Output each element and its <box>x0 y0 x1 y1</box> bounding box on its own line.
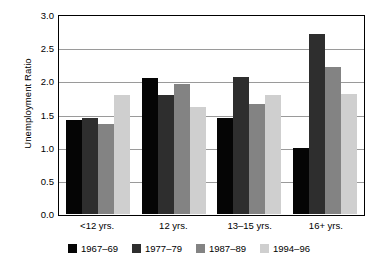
y-axis-tick-label: 3.0 <box>24 11 54 21</box>
bar[interactable] <box>98 124 114 214</box>
bar[interactable] <box>233 77 249 214</box>
y-axis-tick-labels: 0.00.51.01.52.02.53.0 <box>24 15 54 216</box>
bar-chart: Unemployment Ratio 0.00.51.01.52.02.53.0… <box>0 0 378 265</box>
bar[interactable] <box>217 118 233 214</box>
legend-swatch-icon <box>132 244 141 253</box>
bar[interactable] <box>309 34 325 214</box>
plot-area <box>58 15 365 216</box>
bar-groups <box>60 17 363 214</box>
bar[interactable] <box>325 67 341 214</box>
y-axis-tick-label: 0.0 <box>24 210 54 220</box>
legend: 1967–691977–791987–891994–96 <box>0 243 378 254</box>
x-axis-tick-labels: <12 yrs.12 yrs.13–15 yrs.16+ yrs. <box>59 220 364 231</box>
bar-group <box>60 17 136 214</box>
bar[interactable] <box>82 118 98 214</box>
bar[interactable] <box>265 95 281 214</box>
y-axis-tick-label: 2.5 <box>24 44 54 54</box>
legend-item[interactable]: 1977–79 <box>132 243 182 254</box>
bar[interactable] <box>114 95 130 214</box>
legend-label: 1987–89 <box>209 243 246 254</box>
bar-group <box>136 17 212 214</box>
legend-swatch-icon <box>196 244 205 253</box>
y-axis-tick-label: 1.5 <box>24 111 54 121</box>
legend-label: 1977–79 <box>145 243 182 254</box>
legend-swatch-icon <box>260 244 269 253</box>
x-axis-tick-label: <12 yrs. <box>59 220 135 231</box>
y-axis-tick-label: 1.0 <box>24 144 54 154</box>
bar[interactable] <box>249 104 265 214</box>
bar[interactable] <box>158 95 174 214</box>
bar[interactable] <box>341 94 357 214</box>
legend-swatch-icon <box>68 244 77 253</box>
legend-item[interactable]: 1994–96 <box>260 243 310 254</box>
x-axis-tick-label: 12 yrs. <box>135 220 211 231</box>
x-axis-tick-label: 13–15 yrs. <box>212 220 288 231</box>
bar-group <box>287 17 363 214</box>
y-axis-tick-label: 2.0 <box>24 78 54 88</box>
legend-item[interactable]: 1987–89 <box>196 243 246 254</box>
bar[interactable] <box>142 78 158 214</box>
y-axis-tick-label: 0.5 <box>24 177 54 187</box>
bar[interactable] <box>174 84 190 214</box>
legend-label: 1967–69 <box>81 243 118 254</box>
legend-label: 1994–96 <box>273 243 310 254</box>
x-axis-tick-label: 16+ yrs. <box>288 220 364 231</box>
legend-item[interactable]: 1967–69 <box>68 243 118 254</box>
bar[interactable] <box>190 107 206 214</box>
bar-group <box>212 17 288 214</box>
bar[interactable] <box>293 148 309 214</box>
bar[interactable] <box>66 120 82 214</box>
